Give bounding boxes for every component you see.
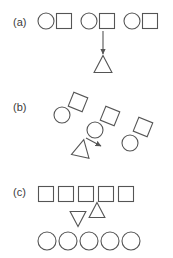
shape-triangle-up: [72, 138, 93, 158]
shape-circle: [122, 135, 138, 151]
shape-square: [100, 106, 120, 126]
shape-square: [79, 187, 94, 202]
shape-circle: [81, 13, 97, 29]
shape-square: [99, 187, 114, 202]
panels-root: (a)(b)(c): [13, 13, 158, 250]
shape-triangle-down: [70, 212, 86, 227]
panel-label-b: (b): [13, 101, 26, 113]
panel-b: (b): [13, 92, 153, 158]
arrow-down-right: [86, 138, 101, 146]
shape-circle: [122, 232, 140, 250]
shape-circle: [80, 232, 98, 250]
shape-square: [59, 187, 74, 202]
shape-square: [57, 14, 72, 29]
shape-square: [133, 117, 153, 137]
shape-circle: [124, 13, 140, 29]
figure-canvas: (a)(b)(c): [0, 0, 173, 258]
figure-svg: (a)(b)(c): [0, 0, 173, 258]
panel-label-c: (c): [13, 186, 26, 198]
shape-triangle-up: [89, 203, 105, 218]
panel-label-a: (a): [13, 16, 26, 28]
shape-square: [119, 187, 134, 202]
shape-square: [143, 14, 158, 29]
shape-square: [39, 187, 54, 202]
shape-circle: [38, 232, 56, 250]
shape-circle: [54, 107, 70, 123]
shape-circle: [38, 13, 54, 29]
shape-circle: [101, 232, 119, 250]
panel-c: (c): [13, 186, 140, 250]
shape-square: [68, 92, 88, 112]
shape-triangle-up: [94, 56, 112, 73]
shape-circle: [59, 232, 77, 250]
shape-square: [100, 14, 115, 29]
panel-a: (a): [13, 13, 158, 73]
shape-circle: [87, 122, 103, 138]
